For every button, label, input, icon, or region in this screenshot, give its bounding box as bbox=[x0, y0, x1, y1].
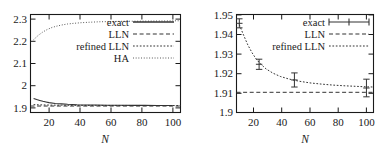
x-tick-label: 80 bbox=[333, 116, 345, 128]
y-tick-label: 1.93 bbox=[214, 48, 234, 60]
y-tick-labels-left: 2.3 2.2 2.1 2 1.9 bbox=[13, 13, 27, 114]
figure-container: 2.3 2.2 2.1 2 1.9 20 40 60 80 100 N bbox=[0, 0, 386, 154]
y-tick-label: 1.9 bbox=[13, 102, 27, 114]
y-tick-label: 1.9 bbox=[219, 106, 233, 118]
legend-left: exact LLN refined LLN HA bbox=[76, 17, 174, 64]
plot-frame-left bbox=[31, 15, 181, 113]
y-tick-labels-right: 1.95 1.94 1.93 1.92 1.91 1.9 bbox=[214, 9, 234, 119]
x-axis-title-right: N bbox=[300, 133, 310, 145]
chart-panel-right: 1.95 1.94 1.93 1.92 1.91 1.9 20 40 60 80… bbox=[193, 0, 386, 154]
legend-label-exact: exact bbox=[107, 17, 129, 28]
x-tick-label: 100 bbox=[165, 116, 182, 128]
x-axis-title-left: N bbox=[100, 133, 110, 145]
x-tick-labels-left: 20 40 60 80 100 bbox=[44, 116, 182, 128]
legend-label-ha: HA bbox=[114, 53, 130, 64]
x-tick-label: 40 bbox=[75, 116, 87, 128]
legend-label-exact: exact bbox=[303, 17, 325, 28]
y-tick-label: 1.94 bbox=[214, 28, 234, 40]
y-tick-label: 2.1 bbox=[13, 57, 27, 69]
y-tick-label: 2 bbox=[22, 79, 28, 91]
y-ticks-left bbox=[31, 19, 181, 108]
x-tick-label: 40 bbox=[276, 116, 288, 128]
legend-swatch-exact bbox=[329, 18, 369, 25]
series-group-left bbox=[31, 21, 181, 106]
x-tick-labels-right: 20 40 60 80 100 bbox=[248, 116, 375, 128]
y-tick-label: 2.3 bbox=[13, 13, 27, 25]
legend-label-lln: LLN bbox=[305, 29, 326, 40]
x-tick-label: 60 bbox=[106, 116, 118, 128]
x-tick-label: 60 bbox=[305, 116, 317, 128]
x-tick-label: 100 bbox=[358, 116, 375, 128]
y-tick-label: 2.2 bbox=[13, 35, 27, 47]
x-tick-label: 80 bbox=[136, 116, 148, 128]
series-exact bbox=[34, 99, 173, 106]
y-tick-label: 1.91 bbox=[214, 87, 233, 99]
legend-right: exact LLN refined LLN bbox=[272, 17, 369, 52]
legend-label-refined-lln: refined LLN bbox=[76, 41, 129, 52]
legend-label-refined-lln: refined LLN bbox=[272, 41, 325, 52]
x-tick-label: 20 bbox=[44, 116, 56, 128]
legend-label-lln: LLN bbox=[109, 29, 130, 40]
series-exact-errorbars bbox=[236, 19, 370, 97]
y-tick-label: 1.92 bbox=[214, 67, 233, 79]
x-tick-label: 20 bbox=[248, 116, 260, 128]
y-tick-label: 1.95 bbox=[214, 9, 234, 21]
chart-panel-left: 2.3 2.2 2.1 2 1.9 20 40 60 80 100 N bbox=[0, 0, 193, 154]
